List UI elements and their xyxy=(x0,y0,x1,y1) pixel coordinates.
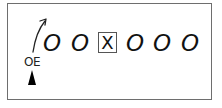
position-marker-triangle-icon xyxy=(28,70,36,85)
route-arrow-icon xyxy=(33,19,46,52)
route-graphics xyxy=(0,0,222,108)
